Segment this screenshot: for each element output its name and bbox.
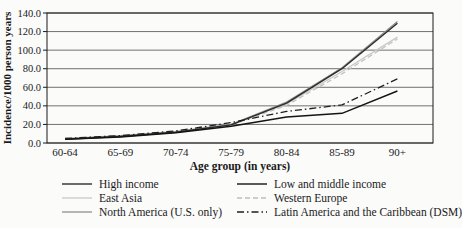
- legend-item: Low and middle income: [237, 177, 462, 191]
- series-line-east-asia: [65, 37, 397, 138]
- legend-column: Low and middle incomeWestern EuropeLatin…: [237, 177, 462, 219]
- legend-label: Latin America and the Caribbean (DSM): [274, 205, 462, 219]
- x-tick-label: 65-69: [108, 146, 134, 158]
- series-line-north-america-u-s-only: [65, 21, 397, 138]
- y-tick-label: 120.0: [17, 26, 41, 37]
- legend-item: North America (U.S. only): [62, 205, 222, 219]
- xtick-labels-group: 60-6465-6970-7475-7980-8485-8990+: [52, 146, 406, 158]
- y-tick-label: 20.0: [23, 119, 41, 130]
- legend-label: East Asia: [99, 191, 142, 205]
- x-axis-title: Age group (in years): [190, 160, 291, 173]
- legend-swatch-line: [62, 194, 92, 202]
- y-tick-label: 80.0: [23, 63, 41, 74]
- x-tick-label: 90+: [389, 146, 406, 158]
- y-tick-label: 40.0: [23, 100, 41, 111]
- x-tick-label: 75-79: [218, 146, 244, 158]
- legend-label: High income: [99, 177, 159, 191]
- legend-swatch-line: [62, 208, 92, 216]
- legend-swatch-line: [237, 208, 267, 216]
- axis-ticks-group: [43, 13, 47, 143]
- x-tick-label: 60-64: [52, 146, 78, 158]
- legend-label: Western Europe: [274, 191, 347, 205]
- legend-item: High income: [62, 177, 222, 191]
- series-line-low-and-middle-income: [65, 91, 397, 139]
- x-tick-label: 70-74: [163, 146, 189, 158]
- legend-item: East Asia: [62, 191, 222, 205]
- y-tick-label: 100.0: [17, 45, 41, 56]
- y-axis-title: Incidence/1000 person years: [1, 11, 13, 144]
- series-line-high-income: [65, 23, 397, 139]
- legend-swatch-line: [62, 180, 92, 188]
- y-tick-label: 140.0: [17, 8, 41, 19]
- legend-item: Latin America and the Caribbean (DSM): [237, 205, 462, 219]
- legend-column: High incomeEast AsiaNorth America (U.S. …: [62, 177, 222, 219]
- legend-item: Western Europe: [237, 191, 462, 205]
- legend-label: North America (U.S. only): [99, 205, 222, 219]
- y-tick-label: 60.0: [23, 82, 41, 93]
- legend-swatch-line: [237, 194, 267, 202]
- series-lines-group: [65, 21, 397, 139]
- chart-legend: High incomeEast AsiaNorth America (U.S. …: [0, 177, 440, 228]
- x-tick-label: 80-84: [274, 146, 300, 158]
- legend-label: Low and middle income: [274, 177, 386, 191]
- line-chart: 0.020.040.060.080.0100.0120.0140.0 60-64…: [0, 0, 440, 176]
- legend-swatch-line: [237, 180, 267, 188]
- plot-border: [47, 13, 433, 143]
- gridlines-group: [47, 13, 433, 143]
- x-tick-label: 85-89: [329, 146, 355, 158]
- series-line-latin-america-and-the-caribbean-dsm: [65, 79, 397, 138]
- y-tick-label: 0.0: [28, 138, 41, 149]
- ytick-labels-group: 0.020.040.060.080.0100.0120.0140.0: [17, 8, 41, 149]
